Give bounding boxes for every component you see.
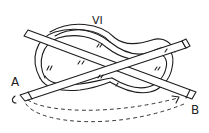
hook-a bbox=[12, 96, 16, 103]
label-b: B bbox=[191, 103, 199, 117]
knot-diagram: VI A B bbox=[0, 0, 209, 133]
label-a: A bbox=[11, 75, 20, 89]
dashed-arrow-inner bbox=[28, 98, 178, 110]
movement-arrows bbox=[26, 96, 184, 122]
figure-number: VI bbox=[92, 14, 103, 27]
dashed-arrow-outer bbox=[26, 104, 184, 122]
